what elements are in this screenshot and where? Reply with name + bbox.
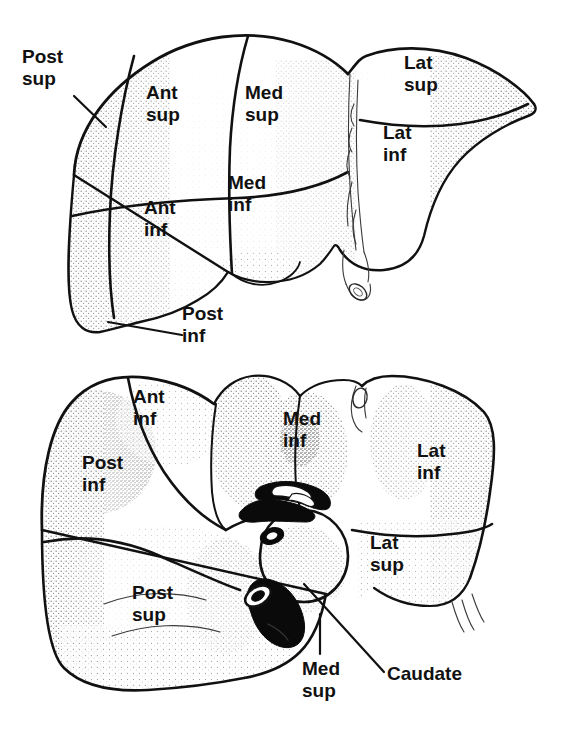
top-liver-anterior-view (60, 34, 540, 345)
bottom-liver-inferior-view (36, 372, 496, 690)
liver-segment-diagram: Post sup Ant sup Med sup Lat sup Lat inf… (0, 0, 563, 751)
diagram-artwork (0, 0, 563, 751)
